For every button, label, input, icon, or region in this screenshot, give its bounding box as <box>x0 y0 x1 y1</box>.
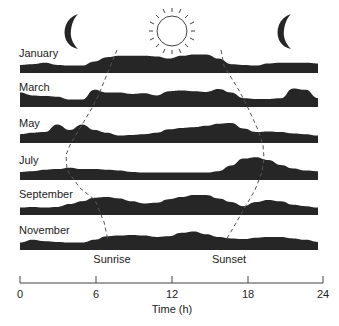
row-label-january: January <box>19 47 58 59</box>
profile-january <box>20 54 318 73</box>
sunset-label: Sunset <box>212 253 246 265</box>
tick-label-12: 12 <box>166 288 178 300</box>
tick-label-18: 18 <box>242 288 254 300</box>
sun-icon <box>149 8 195 54</box>
row-label-march: March <box>19 81 50 93</box>
row-label-november: November <box>19 224 70 236</box>
axis-title: Time (h) <box>152 303 193 315</box>
moon-icon <box>65 14 79 49</box>
tick-label-24: 24 <box>317 288 329 300</box>
activity-profiles <box>20 54 318 250</box>
row-label-september: September <box>19 188 73 200</box>
profile-july <box>20 157 318 180</box>
tick-label-6: 6 <box>93 288 99 300</box>
sunrise-label: Sunrise <box>93 253 130 265</box>
time-axis <box>20 276 323 283</box>
row-label-may: May <box>19 117 40 129</box>
row-label-july: July <box>19 154 39 166</box>
tick-label-0: 0 <box>17 288 23 300</box>
moon-icon <box>278 14 292 49</box>
profile-may <box>20 123 318 143</box>
profile-march <box>20 88 318 107</box>
